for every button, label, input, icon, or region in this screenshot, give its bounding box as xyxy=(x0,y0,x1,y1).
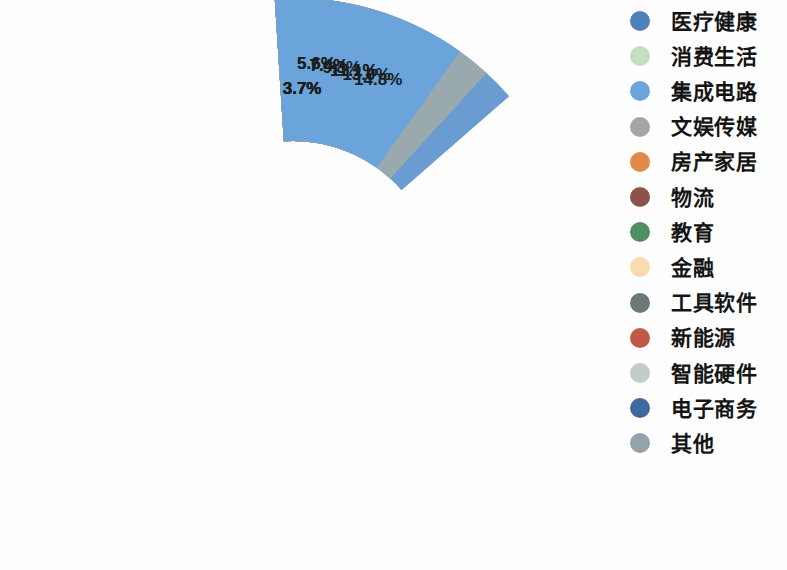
legend-item-label: 文娱传媒 xyxy=(671,116,757,137)
legend-item-label: 电子商务 xyxy=(671,398,757,419)
legend-color-swatch-icon xyxy=(630,222,650,242)
legend-item-label: 房产家居 xyxy=(671,151,757,172)
legend-color-swatch-icon xyxy=(630,187,650,207)
legend-item-label: 医疗健康 xyxy=(671,11,757,32)
legend-item-label: 金融 xyxy=(671,257,714,278)
legend-item-label: 消费生活 xyxy=(671,46,757,67)
legend-color-swatch-icon xyxy=(630,328,650,348)
legend-color-swatch-icon xyxy=(630,257,650,277)
chart-page: 11.1%14.8%13.0%3.7%3.7%3.7%3.7%5.6%5.6%7… xyxy=(0,0,787,570)
legend-item[interactable]: 电子商务 xyxy=(628,391,757,425)
legend-item[interactable]: 物流 xyxy=(628,180,714,214)
legend-item-label: 其他 xyxy=(671,433,714,454)
legend-item[interactable]: 智能硬件 xyxy=(628,356,757,390)
legend-item[interactable]: 其他 xyxy=(628,426,714,460)
legend-item[interactable]: 医疗健康 xyxy=(628,4,757,38)
legend-color-swatch-icon xyxy=(630,11,650,31)
legend-color-swatch-icon xyxy=(630,293,650,313)
legend-item[interactable]: 工具软件 xyxy=(628,286,757,320)
donut-chart-svg: 11.1%14.8%13.0%3.7%3.7%3.7%3.7%5.6%5.6%7… xyxy=(0,0,620,570)
legend-item[interactable]: 房产家居 xyxy=(628,145,757,179)
legend-item-label: 新能源 xyxy=(671,327,736,348)
legend-color-swatch-icon xyxy=(630,398,650,418)
legend-item[interactable]: 教育 xyxy=(628,215,714,249)
donut-chart: 11.1%14.8%13.0%3.7%3.7%3.7%3.7%5.6%5.6%7… xyxy=(0,0,620,570)
legend-item-label: 物流 xyxy=(671,187,714,208)
legend-color-swatch-icon xyxy=(630,433,650,453)
legend-item-label: 智能硬件 xyxy=(671,363,757,384)
legend-item[interactable]: 新能源 xyxy=(628,321,736,355)
legend-color-swatch-icon xyxy=(630,152,650,172)
legend-item[interactable]: 集成电路 xyxy=(628,74,757,108)
legend-color-swatch-icon xyxy=(630,81,650,101)
legend-color-swatch-icon xyxy=(630,117,650,137)
legend-item-label: 集成电路 xyxy=(671,81,757,102)
legend-item-label: 教育 xyxy=(671,222,714,243)
legend-item[interactable]: 消费生活 xyxy=(628,39,757,73)
slice-value-label: 3.7% xyxy=(283,79,322,98)
legend-item-label: 工具软件 xyxy=(671,292,757,313)
legend-item[interactable]: 文娱传媒 xyxy=(628,110,757,144)
legend-item[interactable]: 金融 xyxy=(628,250,714,284)
legend-color-swatch-icon xyxy=(630,46,650,66)
slice-value-label: 11.1% xyxy=(330,61,377,80)
chart-legend: 医疗健康消费生活集成电路文娱传媒房产家居物流教育金融工具软件新能源智能硬件电子商… xyxy=(628,4,787,470)
legend-color-swatch-icon xyxy=(630,363,650,383)
